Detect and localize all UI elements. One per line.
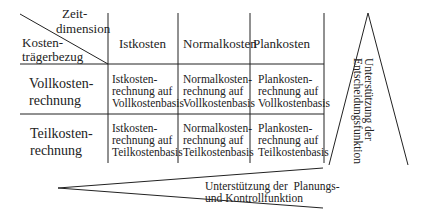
corner-top-line2: dimension [56, 22, 110, 35]
cell-line: rechnung auf [183, 134, 254, 146]
cell-line: Plankosten- [258, 73, 330, 85]
cell-plan-voll: Plankosten- rechnung auf Vollkostenbasis [258, 73, 330, 109]
cell-line: Plankosten- [258, 122, 329, 134]
cell-line: rechnung auf [112, 134, 183, 146]
vertical-note-line: Unterstützung der [363, 58, 374, 164]
planning-function-label: Unterstützung der Planungs- und Kontroll… [205, 180, 339, 204]
cell-ist-teil: Istkosten- rechnung auf Teilkostenbasis [112, 122, 183, 158]
cell-line: Normalkosten- [183, 73, 255, 85]
column-header-istkosten: Istkosten [119, 37, 166, 50]
cell-line: rechnung auf [183, 85, 255, 97]
cell-line: Istkosten- [112, 122, 183, 134]
bottom-note-line: Unterstützung der Planungs- [205, 180, 339, 192]
cell-line: Istkosten- [112, 73, 184, 85]
cell-line: rechnung auf [112, 85, 184, 97]
row-label-line: rechnung [30, 142, 93, 159]
cell-line: rechnung auf [258, 85, 330, 97]
cell-line: Normalkosten- [183, 122, 254, 134]
vertical-note-line: Entscheidungsfunktion [352, 58, 363, 164]
cell-line: Vollkostenbasis [258, 97, 330, 109]
row-header-vollkosten: Vollkosten- rechnung [29, 75, 93, 109]
cell-line: rechnung auf [258, 134, 329, 146]
corner-bottom-line1: Kosten- [22, 36, 63, 49]
cell-ist-voll: Istkosten- rechnung auf Vollkostenbasis [112, 73, 184, 109]
cell-line: Teilkostenbasis [112, 146, 183, 158]
corner-bottom-line2: trägerbezug [22, 50, 83, 63]
row-label-line: rechnung [29, 92, 93, 109]
row-label-line: Teilkosten- [30, 125, 93, 142]
cell-line: Teilkostenbasis [183, 146, 254, 158]
row-label-line: Vollkosten- [29, 75, 93, 92]
cell-normal-voll: Normalkosten- rechnung auf Vollkostenbas… [183, 73, 255, 109]
bottom-note-line: und Kontrollfunktion [205, 192, 339, 204]
row-header-teilkosten: Teilkosten- rechnung [30, 125, 93, 159]
cell-line: Vollkostenbasis [112, 97, 184, 109]
decision-function-label: Unterstützung der Entscheidungsfunktion [352, 58, 374, 164]
cell-normal-teil: Normalkosten- rechnung auf Teilkostenbas… [183, 122, 254, 158]
cell-line: Teilkostenbasis [258, 146, 329, 158]
corner-top-line1: Zeit- [62, 7, 87, 20]
cell-line: Vollkostenbasis [183, 97, 255, 109]
cell-plan-teil: Plankosten- rechnung auf Teilkostenbasis [258, 122, 329, 158]
column-header-normalkosten: Normalkosten [183, 37, 257, 50]
column-header-plankosten: Plankosten [253, 37, 310, 50]
